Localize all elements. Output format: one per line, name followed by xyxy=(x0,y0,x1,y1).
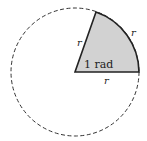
label-radius-lower: r xyxy=(104,75,110,86)
radian-diagram: r r 1 rad r xyxy=(0,0,147,141)
label-angle: 1 rad xyxy=(84,58,113,71)
label-radius-upper: r xyxy=(77,37,83,48)
label-arc: r xyxy=(131,27,137,38)
